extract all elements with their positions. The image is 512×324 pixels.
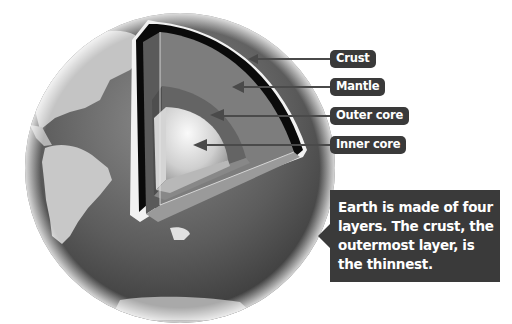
label-crust: Crust bbox=[330, 50, 376, 68]
label-inner-core: Inner core bbox=[330, 136, 406, 154]
info-callout: Earth is made of four layers. The crust,… bbox=[318, 190, 500, 282]
label-outer-core: Outer core bbox=[330, 107, 409, 125]
label-mantle: Mantle bbox=[330, 78, 385, 96]
callout-text: Earth is made of four layers. The crust,… bbox=[338, 198, 498, 274]
earth-layers-diagram: Crust Mantle Outer core Inner core Earth… bbox=[0, 0, 512, 324]
